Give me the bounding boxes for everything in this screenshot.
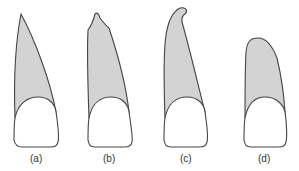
crown-d [244,97,287,147]
panel-label-c: (c) [180,153,192,164]
tooth-diagram [0,0,299,171]
panel-label-d: (d) [258,153,270,164]
tooth-b [88,13,133,147]
crown-c [164,97,207,147]
tooth-c [164,8,207,147]
panel-label-b: (b) [103,153,115,164]
crown-a [14,97,58,147]
tooth-a [14,14,58,147]
crown-b [88,97,132,147]
tooth-d [244,38,287,147]
panel-label-a: (a) [30,153,42,164]
